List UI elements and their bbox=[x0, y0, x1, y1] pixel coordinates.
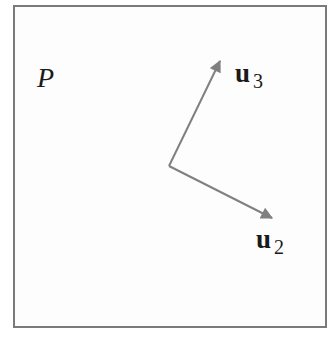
vector-u2-arrow bbox=[169, 166, 272, 218]
vector-u2-subscript: 2 bbox=[274, 236, 284, 258]
vector-u3-subscript: 3 bbox=[253, 70, 263, 92]
vector-u2-base: u bbox=[256, 224, 271, 254]
vector-u3-base: u bbox=[235, 58, 250, 88]
vector-u3-label: u3 bbox=[235, 60, 263, 91]
vector-arrows bbox=[0, 0, 331, 337]
vector-u2-label: u2 bbox=[256, 226, 284, 257]
vector-u3-arrow bbox=[169, 61, 220, 166]
plane-label: P bbox=[37, 64, 54, 92]
